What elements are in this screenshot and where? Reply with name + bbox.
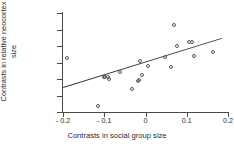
data-point [163,55,167,59]
data-point [96,104,100,108]
data-point [169,65,173,69]
y-tick-mark [57,46,62,47]
data-point [137,78,141,82]
x-tick-mark [187,113,188,117]
data-point [138,59,142,63]
y-tick-mark [57,79,62,80]
data-point [130,87,134,91]
scatter-plot-figure: - 0.03- 0.02- 0.0100.010.020.03 - 0.2- 0… [0,0,234,149]
data-point [175,44,179,48]
x-tick-mark [63,113,64,117]
data-point [65,56,69,60]
data-point [140,73,144,77]
x-tick-label: 0.1 [182,117,192,124]
x-tick-mark [104,113,105,117]
data-point [172,23,176,27]
data-point [107,77,111,81]
data-point [211,50,215,54]
y-tick-mark [57,63,62,64]
x-tick-mark [228,113,229,117]
x-tick-mark [146,113,147,117]
regression-line [63,38,222,88]
x-tick-label: 0.2 [223,117,233,124]
data-point [118,70,122,74]
data-point [190,40,194,44]
y-tick-mark [57,112,62,113]
y-axis-title: Contrasts in relative neocortex size [0,0,18,104]
y-tick-mark [57,13,62,14]
plot-area [63,13,228,112]
x-tick-label: - 0.1 [97,117,111,124]
data-point [192,54,196,58]
y-tick-mark [57,96,62,97]
y-tick-mark [57,30,62,31]
x-tick-label: 0 [144,117,148,124]
data-point [146,64,150,68]
x-tick-label: - 0.2 [56,117,70,124]
x-axis-title: Contrasts in social group size [0,131,234,140]
